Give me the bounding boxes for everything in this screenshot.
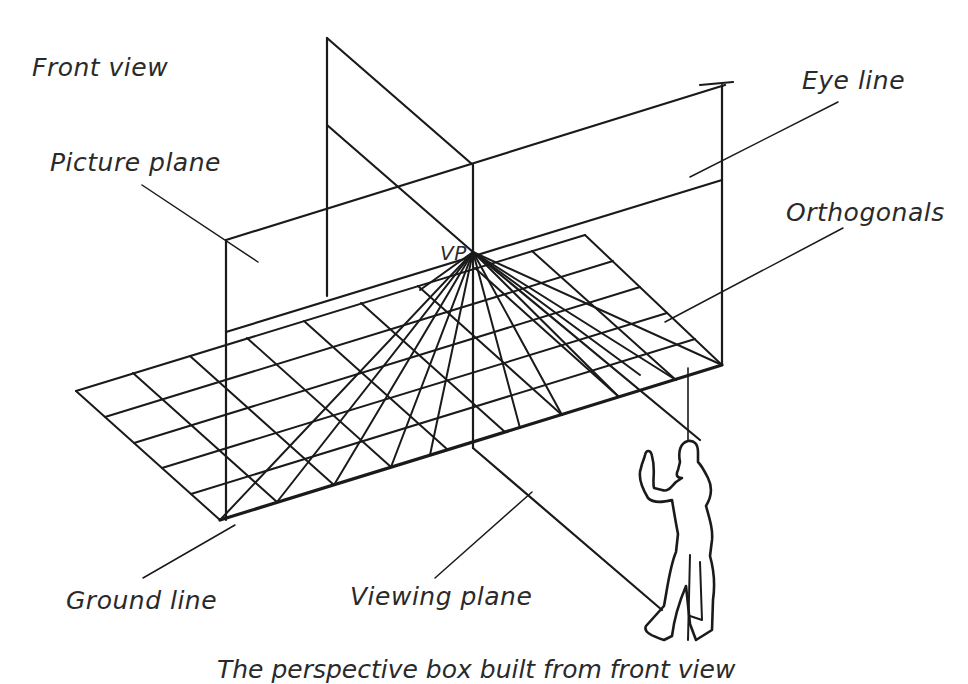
figure-caption: The perspective box built from front vie… — [217, 657, 735, 682]
label-front-view: Front view — [32, 55, 168, 80]
label-orthogonals: Orthogonals — [786, 200, 945, 225]
label-eye-line: Eye line — [802, 68, 905, 93]
label-ground-line: Ground line — [66, 588, 217, 613]
viewer-figure — [640, 441, 714, 640]
label-picture-plane: Picture plane — [50, 150, 221, 175]
label-viewing-plane: Viewing plane — [350, 584, 532, 609]
label-vanishing-point: VP — [440, 243, 467, 263]
leader-lines — [142, 102, 843, 578]
